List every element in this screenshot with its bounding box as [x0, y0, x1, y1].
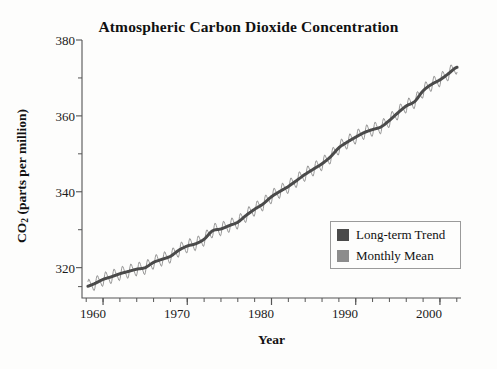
legend-swatch-monthly	[337, 250, 349, 262]
y-tick-label: 320	[35, 261, 75, 277]
y-tick-label: 380	[35, 33, 75, 49]
legend-label-trend: Long-term Trend	[356, 227, 445, 243]
x-tick-label: 2000	[399, 306, 459, 322]
y-tick-label: 360	[35, 109, 75, 125]
y-tick-label: 340	[35, 185, 75, 201]
x-tick-label: 1970	[147, 306, 207, 322]
legend-label-monthly: Monthly Mean	[356, 248, 434, 264]
chart-figure: Atmospheric Carbon Dioxide Concentration…	[0, 0, 497, 369]
legend-swatch-trend	[337, 229, 349, 241]
x-tick-label: 1990	[315, 306, 375, 322]
x-tick-label: 1980	[231, 306, 291, 322]
x-tick-label: 1960	[63, 306, 123, 322]
legend-item-long-term-trend: Long-term Trend	[337, 225, 445, 245]
legend-item-monthly-mean: Monthly Mean	[337, 246, 434, 266]
chart-legend: Long-term Trend Monthly Mean	[330, 221, 461, 269]
